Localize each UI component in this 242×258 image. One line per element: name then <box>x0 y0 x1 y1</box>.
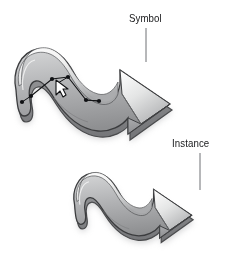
anchor-point[interactable] <box>50 77 54 81</box>
illustration-figure: Symbol Instance <box>0 0 242 258</box>
anchor-point[interactable] <box>66 75 70 79</box>
illustration-canvas <box>0 0 242 258</box>
symbol-arrow-body <box>15 48 172 140</box>
anchor-point[interactable] <box>20 100 24 104</box>
symbol-arrow-graphic[interactable] <box>15 48 172 142</box>
anchor-point[interactable] <box>29 94 33 98</box>
symbol-label: Symbol <box>129 12 162 24</box>
instance-label: Instance <box>172 137 209 149</box>
anchor-point[interactable] <box>84 98 88 102</box>
anchor-point[interactable] <box>97 99 101 103</box>
instance-arrow-body <box>74 172 193 242</box>
instance-arrow-graphic[interactable] <box>74 172 194 245</box>
